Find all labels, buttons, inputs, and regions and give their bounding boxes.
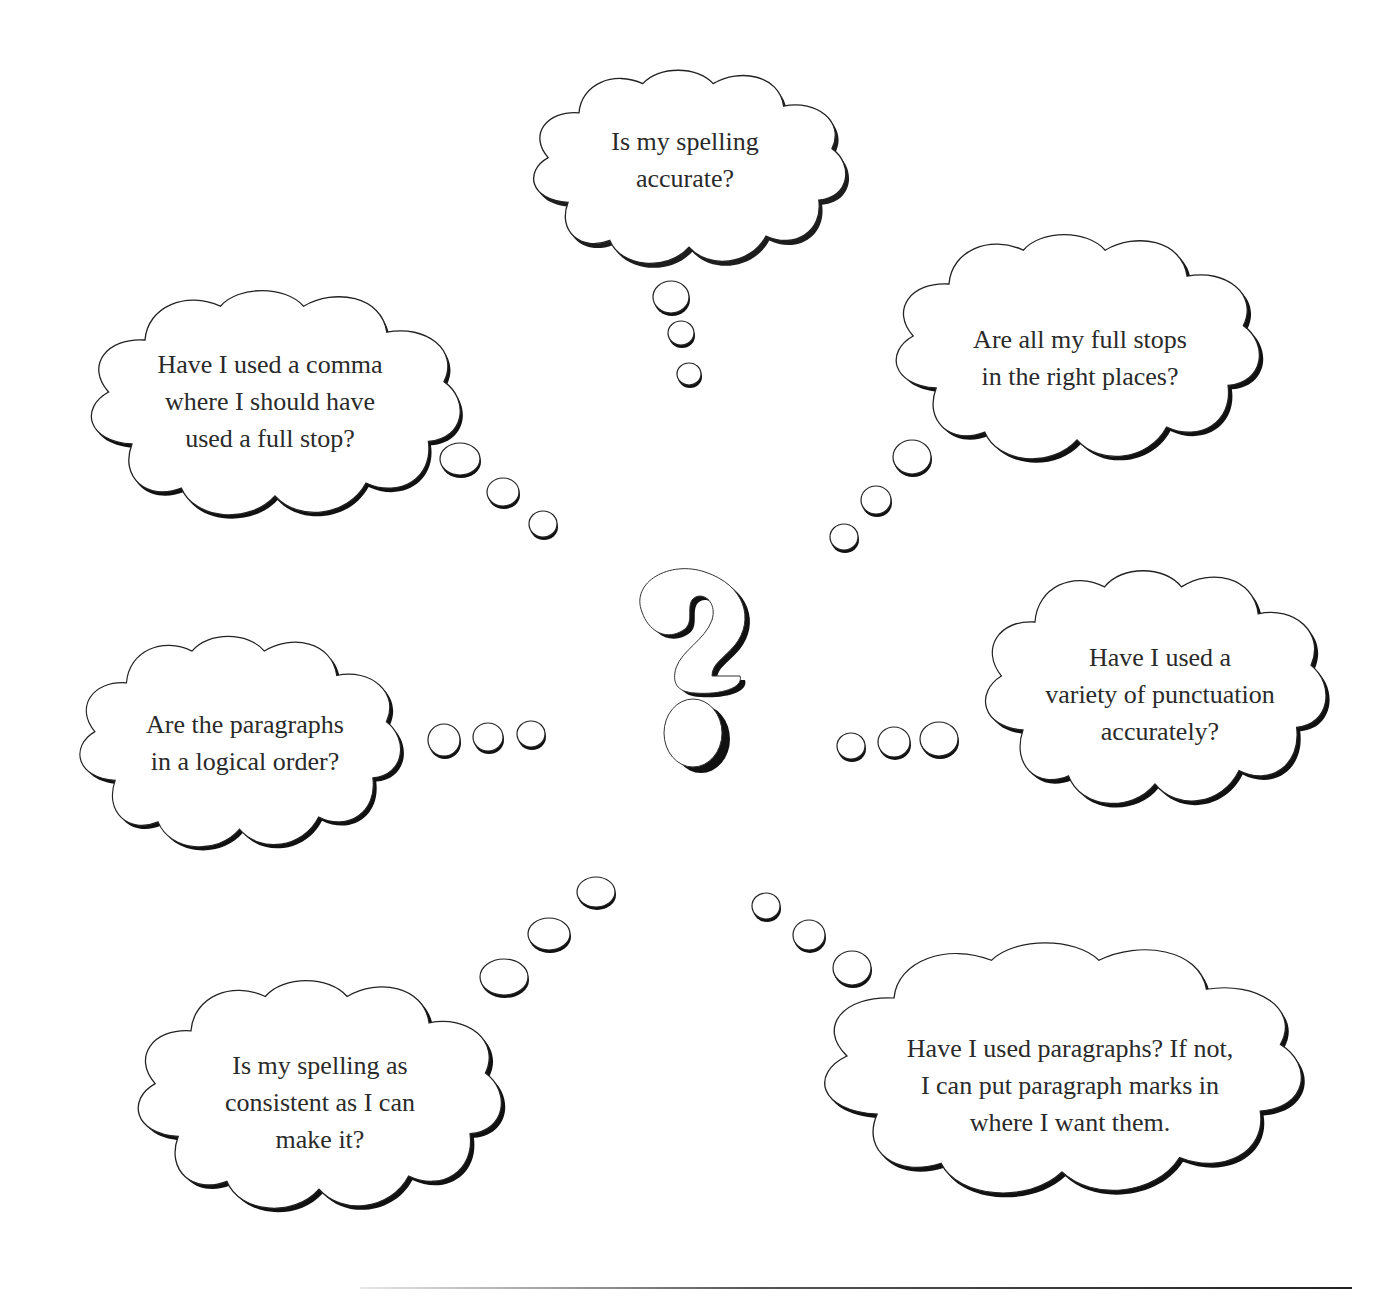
text-line: where I want them.	[970, 1104, 1171, 1141]
question-mark-icon	[640, 569, 750, 773]
text-line: Is my spelling	[611, 123, 758, 160]
text-line: consistent as I can	[225, 1084, 415, 1121]
bubble-text-paragraphs-used: Have I used paragraphs? If not, I can pu…	[870, 1028, 1270, 1143]
text-line: Are all my full stops	[973, 321, 1187, 358]
bubble-text-comma-full-stop: Have I used a comma where I should have …	[110, 344, 430, 459]
text-line: Have I used a comma	[157, 346, 382, 383]
text-line: I can put paragraph marks in	[921, 1067, 1219, 1104]
thought-trail-upper-left	[440, 443, 558, 540]
text-line: accurately?	[1101, 713, 1219, 750]
thought-trail-top	[653, 281, 702, 388]
text-line: in a logical order?	[151, 743, 339, 780]
text-line: Is my spelling as	[232, 1047, 408, 1084]
thought-trail-lower-left	[480, 877, 616, 998]
text-line: used a full stop?	[185, 420, 355, 457]
text-line: Have I used a	[1089, 639, 1231, 676]
text-line: where I should have	[165, 383, 375, 420]
thought-trail-upper-right	[830, 440, 932, 553]
bubble-text-spelling-accurate: Is my spelling accurate?	[550, 120, 820, 200]
bubble-text-punctuation-variety: Have I used a variety of punctuation acc…	[1015, 637, 1305, 752]
text-line: in the right places?	[981, 358, 1178, 395]
bubble-text-paragraphs-order: Are the paragraphs in a logical order?	[100, 703, 390, 783]
thought-trail-middle-right	[837, 722, 959, 762]
bubble-text-spelling-consistent: Is my spelling as consistent as I can ma…	[170, 1045, 470, 1160]
bottom-divider	[360, 1287, 1352, 1289]
text-line: Have I used paragraphs? If not,	[907, 1030, 1233, 1067]
thought-trail-middle-left	[428, 721, 546, 759]
bubble-text-full-stops-places: Are all my full stops in the right place…	[930, 318, 1230, 398]
text-line: accurate?	[636, 160, 734, 197]
text-line: Are the paragraphs	[146, 706, 344, 743]
thought-trail-lower-right	[752, 893, 872, 988]
text-line: variety of punctuation	[1045, 676, 1275, 713]
text-line: make it?	[276, 1121, 365, 1158]
